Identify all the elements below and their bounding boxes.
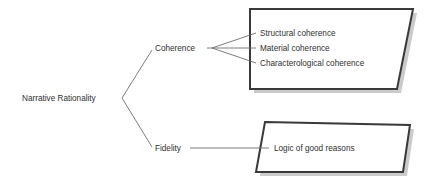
node-label-narrative-rationality: Narrative Rationality [22, 94, 97, 103]
diagram-canvas: Narrative Rationality Coherence Fidelity… [0, 0, 430, 187]
connector-root-to-coherence [122, 50, 152, 98]
node-label-fidelity: Fidelity [155, 144, 182, 153]
node-label-logic-of-good-reasons: Logic of good reasons [274, 144, 355, 153]
connector-root-to-fidelity [122, 98, 152, 147]
node-label-material-coherence: Material coherence [260, 44, 330, 53]
node-label-coherence: Coherence [155, 44, 196, 53]
node-label-characterological-coherence: Characterological coherence [260, 59, 365, 68]
node-label-structural-coherence: Structural coherence [260, 29, 336, 38]
narrative-rationality-diagram: Narrative Rationality Coherence Fidelity… [0, 0, 430, 187]
